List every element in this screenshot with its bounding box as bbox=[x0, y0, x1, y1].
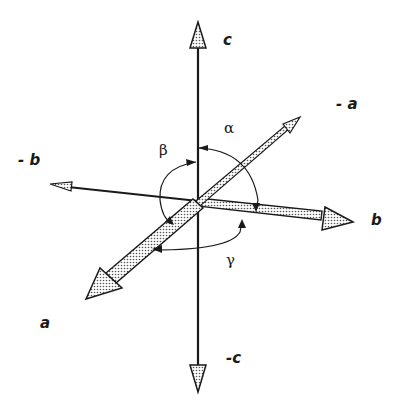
b-arrowhead-icon bbox=[322, 207, 353, 230]
label-alpha: α bbox=[224, 121, 234, 136]
neg-b-arrowhead-icon bbox=[50, 182, 72, 191]
neg-c-arrowhead-icon bbox=[190, 365, 206, 392]
c-arrowhead-icon bbox=[190, 22, 206, 48]
label-b: b bbox=[371, 213, 382, 228]
label-neg-b: - b bbox=[18, 153, 40, 168]
label-gamma: γ bbox=[226, 253, 235, 268]
label-neg-a: - a bbox=[336, 97, 358, 112]
label-beta: β bbox=[159, 143, 168, 158]
label-neg-c: -c bbox=[226, 351, 241, 366]
label-a: a bbox=[40, 316, 50, 331]
label-c: c bbox=[223, 33, 232, 48]
axes-diagram: c -c a - a b - b α β γ bbox=[0, 0, 402, 410]
axes-drawing bbox=[0, 0, 402, 410]
